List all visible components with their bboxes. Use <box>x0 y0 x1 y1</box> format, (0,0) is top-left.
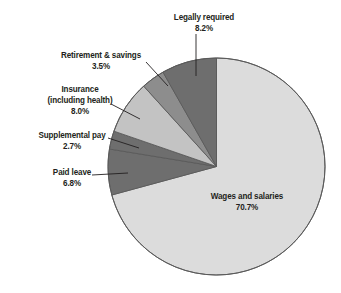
slice-label-retirement-and-savings: Retirement & savings 3.5% <box>53 50 150 72</box>
slice-label-insurance-subname: (including health) <box>27 95 133 106</box>
pie-chart: Legally required 8.2% Retirement & savin… <box>0 0 341 293</box>
slice-label-supplemental-pay-value: 2.7% <box>19 141 125 152</box>
slice-label-paid-leave-value: 6.8% <box>23 178 122 189</box>
slice-label-paid-leave-name: Paid leave <box>23 167 122 178</box>
slice-label-retirement-value: 3.5% <box>53 61 150 72</box>
slice-label-retirement-name: Retirement & savings <box>53 50 150 61</box>
slice-label-insurance-name: Insurance <box>27 84 133 95</box>
slice-label-insurance-value: 8.0% <box>27 106 133 117</box>
slice-label-legally-required: Legally required 8.2% <box>155 12 254 34</box>
slice-label-legally-required-value: 8.2% <box>155 23 254 34</box>
slice-label-legally-required-name: Legally required <box>155 12 254 23</box>
pie-slices <box>108 58 325 275</box>
slice-label-wages-value: 70.7% <box>199 202 296 213</box>
slice-label-wages-and-salaries: Wages and salaries 70.7% <box>199 191 296 213</box>
slice-label-wages-name: Wages and salaries <box>199 191 296 202</box>
slice-label-insurance: Insurance (including health) 8.0% <box>27 84 133 117</box>
slice-label-supplemental-pay-name: Supplemental pay <box>19 130 125 141</box>
slice-label-paid-leave: Paid leave 6.8% <box>23 167 122 189</box>
slice-label-supplemental-pay: Supplemental pay 2.7% <box>19 130 125 152</box>
